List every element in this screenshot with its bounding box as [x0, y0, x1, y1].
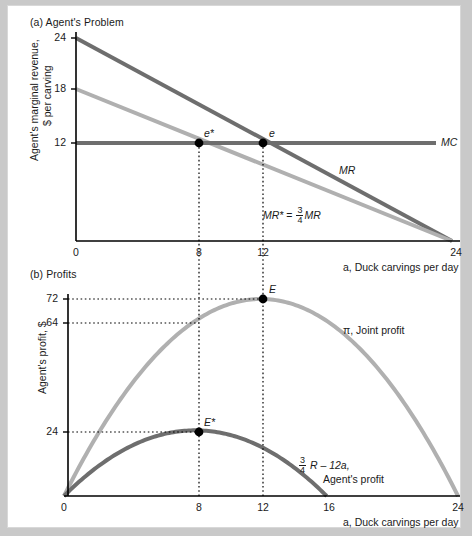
fraction-denominator: 4	[296, 216, 303, 225]
mr-star-lhs: MR*	[263, 209, 283, 221]
three-quarters-fraction: 3 4	[296, 206, 303, 225]
panel-b-title: (b) Profits	[30, 268, 77, 280]
fraction-denominator-b: 4	[299, 466, 306, 475]
panel-a-xtick-label-0: 0	[66, 246, 86, 258]
panel-b-xtick-label-0: 0	[54, 501, 74, 513]
panel-a-ytick-label-12: 12	[46, 136, 66, 148]
panel-b-xtick-label-16: 16	[319, 501, 339, 513]
panel-b-point-E-star-label: E*	[204, 416, 215, 428]
panel-a-xaxis-label: a, Duck carvings per day	[343, 261, 459, 273]
panel-a-ytick-label-18: 18	[46, 82, 66, 94]
joint-profit-label: π, Joint profit	[343, 324, 405, 336]
panel-b-point-E-label: E	[269, 283, 276, 295]
point-E-dot	[259, 295, 268, 304]
agent-profit-expr: R – 12a,	[310, 459, 350, 471]
mr-star-rhs: MR	[304, 209, 320, 221]
point-e-star-dot	[195, 139, 204, 148]
mc-label: MC	[441, 136, 457, 148]
panel-b-ytick-label-24: 24	[38, 425, 58, 437]
panel-a-point-e-label: e	[269, 127, 275, 139]
point-E-star-dot	[195, 428, 204, 437]
mr-star-equals: =	[286, 209, 292, 221]
mr-label: MR	[339, 164, 355, 176]
panel-b-xaxis-label: a, Duck carvings per day	[343, 516, 459, 528]
panel-b-xtick-label-8: 8	[189, 501, 209, 513]
figure-container: (a) Agent's Problem	[8, 6, 460, 527]
panel-b-ytick-label-72: 72	[38, 292, 58, 304]
mr-star-equation: MR* = 3 4 MR	[263, 206, 321, 225]
panel-b-xtick-label-12: 12	[253, 501, 273, 513]
panel-a-point-e-star-label: e*	[204, 127, 214, 139]
three-quarters-fraction-b: 3 4	[299, 456, 306, 475]
panel-b-xtick-label-24: 24	[448, 501, 468, 513]
agent-profit-curve	[64, 430, 327, 496]
panel-a-ytick-label-24: 24	[46, 31, 66, 43]
panel-a-xtick-label-24: 24	[446, 246, 466, 258]
panel-a-xtick-label-8: 8	[189, 246, 209, 258]
panel-a-xtick-label-12: 12	[253, 246, 273, 258]
panel-b-ylabel: Agent's profit, $	[36, 321, 48, 394]
panel-b-ytick-label-64: 64	[38, 316, 58, 328]
agent-profit-name: Agent's profit	[323, 473, 384, 485]
panel-a-ylabel-line1: Agent's marginal revenue,	[28, 39, 40, 161]
point-e-dot	[259, 139, 268, 148]
panel-a-ylabel-line2: $ per carving	[41, 65, 53, 126]
